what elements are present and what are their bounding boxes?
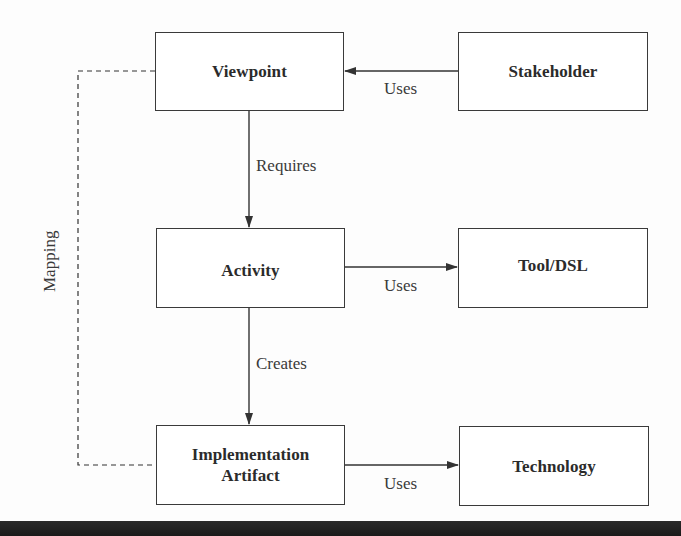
node-technology-label: Technology (512, 456, 596, 477)
node-tool-dsl: Tool/DSL (458, 228, 648, 308)
edge-label-activity-tool: Uses (384, 276, 417, 296)
diagram-canvas: Viewpoint Stakeholder Activity Tool/DSL … (0, 0, 681, 536)
node-tool-dsl-label: Tool/DSL (518, 255, 588, 276)
edge-label-stakeholder-viewpoint: Uses (384, 79, 417, 99)
bottom-edge-bar (0, 521, 681, 536)
node-stakeholder-label: Stakeholder (509, 61, 598, 82)
node-viewpoint-label: Viewpoint (212, 61, 287, 82)
node-stakeholder: Stakeholder (458, 32, 648, 111)
node-impl-label-line1: Implementation (192, 444, 310, 465)
node-technology: Technology (459, 426, 649, 506)
node-implementation-artifact: Implementation Artifact (156, 425, 345, 505)
edge-label-impl-technology: Uses (384, 474, 417, 494)
node-activity-label: Activity (221, 260, 279, 281)
edge-label-viewpoint-activity: Requires (256, 156, 316, 176)
node-viewpoint: Viewpoint (155, 32, 344, 111)
edge-mapping (78, 71, 155, 465)
node-impl-label-line2: Artifact (221, 465, 279, 486)
edge-label-mapping: Mapping (40, 231, 60, 292)
node-activity: Activity (156, 228, 345, 308)
edge-label-activity-impl: Creates (256, 354, 307, 374)
